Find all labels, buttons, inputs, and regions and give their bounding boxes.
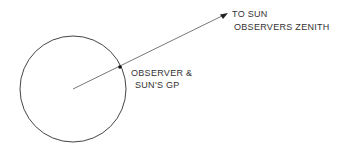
- label-suns-gp: SUN'S GP: [135, 80, 180, 91]
- label-to-sun: TO SUN: [232, 9, 268, 20]
- arrowhead-icon: [220, 13, 228, 19]
- observer-point: [118, 65, 122, 69]
- label-observer: OBSERVER &: [131, 68, 192, 79]
- label-observers-zenith: OBSERVERS ZENITH: [234, 22, 330, 33]
